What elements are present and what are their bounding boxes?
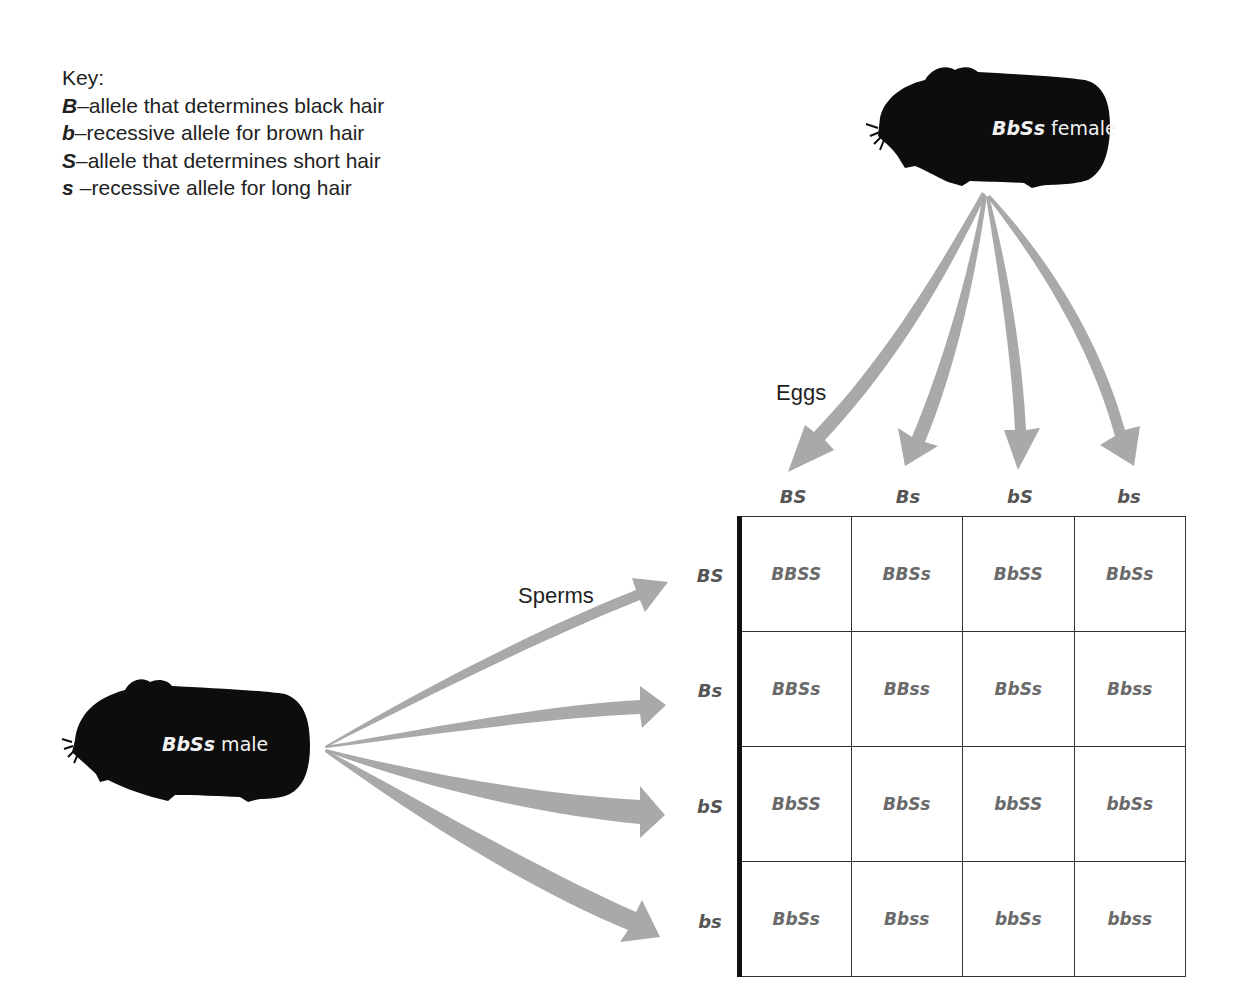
punnett-cell: BbSs <box>851 747 963 862</box>
punnett-cell: bbSS <box>963 747 1075 862</box>
punnett-row: BBSs BBss BbSs Bbss <box>740 632 1186 747</box>
punnett-cell: BbSs <box>740 862 852 977</box>
egg-arrow-bS <box>986 196 1040 470</box>
male-label: BbSs male <box>162 733 268 755</box>
sperm-gamete-Bs: Bs <box>690 680 730 701</box>
egg-arrows <box>788 192 1140 472</box>
punnett-cell: BBSs <box>740 632 852 747</box>
sperms-label: Sperms <box>518 583 594 609</box>
punnett-cell: BbSS <box>740 747 852 862</box>
egg-gamete-Bs: Bs <box>880 486 936 507</box>
sperm-gamete-BS: BS <box>690 565 730 586</box>
punnett-cell: bbSs <box>1074 747 1186 862</box>
punnett-cell: BbSs <box>963 632 1075 747</box>
punnett-cell: bbss <box>1074 862 1186 977</box>
sperm-arrows <box>325 578 668 942</box>
female-label: BbSs female <box>992 117 1117 139</box>
punnett-cell: BBSS <box>740 517 852 632</box>
punnett-cell: Bbss <box>1074 632 1186 747</box>
egg-gamete-bs: bs <box>1101 486 1157 507</box>
sperm-gamete-bS: bS <box>690 796 730 817</box>
eggs-label: Eggs <box>776 380 826 406</box>
sperm-gamete-bs: bs <box>690 911 730 932</box>
punnett-square: BBSS BBSs BbSS BbSs BBSs BBss BbSs Bbss … <box>737 516 1186 977</box>
punnett-row: BbSs Bbss bbSs bbss <box>740 862 1186 977</box>
punnett-cell: BBss <box>851 632 963 747</box>
punnett-row: BbSS BbSs bbSS bbSs <box>740 747 1186 862</box>
punnett-cell: Bbss <box>851 862 963 977</box>
egg-gamete-BS: BS <box>765 486 821 507</box>
punnett-cell: BbSS <box>963 517 1075 632</box>
punnett-cell: BBSs <box>851 517 963 632</box>
egg-gamete-bS: bS <box>992 486 1048 507</box>
punnett-row: BBSS BBSs BbSS BbSs <box>740 517 1186 632</box>
sperm-arrow-bS <box>325 749 665 838</box>
punnett-cell: BbSs <box>1074 517 1186 632</box>
sperm-arrow-bs <box>325 750 660 942</box>
punnett-cell: bbSs <box>963 862 1075 977</box>
egg-arrow-Bs <box>898 195 987 466</box>
